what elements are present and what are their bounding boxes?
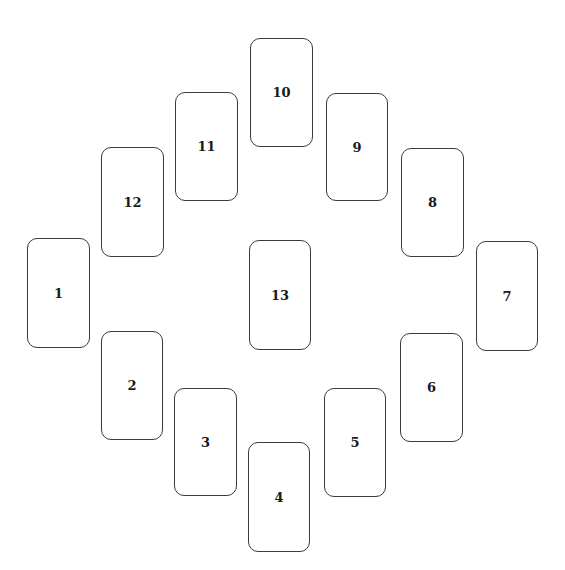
card-position-12: 12: [101, 147, 164, 257]
card-number: 1: [54, 286, 63, 301]
card-position-11: 11: [175, 92, 238, 201]
card-number: 13: [271, 288, 289, 303]
card-number: 7: [502, 289, 511, 304]
card-number: 10: [272, 85, 290, 100]
card-position-3: 3: [174, 388, 237, 496]
card-number: 8: [428, 195, 437, 210]
card-position-8: 8: [401, 148, 464, 257]
card-position-7: 7: [476, 241, 538, 351]
card-number: 9: [352, 140, 361, 155]
card-number: 2: [127, 378, 136, 393]
card-position-5: 5: [324, 388, 386, 497]
card-number: 12: [123, 195, 141, 210]
card-number: 5: [350, 435, 359, 450]
card-position-10: 10: [250, 38, 313, 147]
card-number: 4: [274, 490, 283, 505]
card-number: 3: [201, 435, 210, 450]
card-position-9: 9: [326, 93, 388, 201]
card-position-1: 1: [27, 238, 90, 348]
card-position-2: 2: [101, 331, 163, 440]
card-position-6: 6: [400, 333, 463, 442]
card-number: 6: [427, 380, 436, 395]
card-position-4: 4: [248, 442, 310, 552]
card-position-13: 13: [249, 240, 311, 350]
card-number: 11: [197, 139, 215, 154]
